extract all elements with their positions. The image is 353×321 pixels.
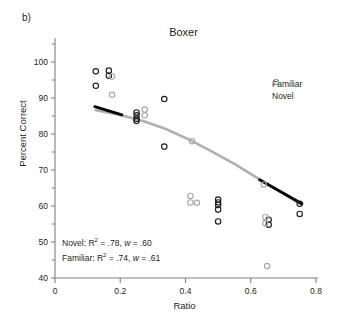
x-tick-label: 0.6 <box>245 286 257 296</box>
data-point-familiar <box>215 219 220 224</box>
data-point-familiar <box>297 211 302 216</box>
data-point-novel <box>188 200 193 205</box>
data-point-novel <box>194 200 199 205</box>
legend: Familiar Novel <box>272 78 302 102</box>
annotation-familiar: Familiar: R2 = .74, w = .61 <box>62 249 160 264</box>
data-point-novel <box>264 263 269 268</box>
x-tick-label: 0.2 <box>114 286 126 296</box>
x-tick-label: 0.8 <box>310 286 322 296</box>
annotation-familiar-prefix: Familiar: R <box>62 253 103 263</box>
fit-annotations: Novel: R2 = .78, w = .60 Familiar: R2 = … <box>62 234 160 265</box>
annotation-novel-suffix: = .60 <box>130 238 152 248</box>
data-point-familiar <box>162 96 167 101</box>
novel-fit-curve <box>96 110 302 204</box>
open-circle-marker-icon <box>272 78 280 86</box>
annotation-novel-prefix: Novel: R <box>62 238 95 248</box>
plot-area: 40506070809010000.20.40.60.8 <box>0 0 353 321</box>
data-point-familiar <box>162 144 167 149</box>
y-tick-label: 40 <box>39 273 49 283</box>
y-tick-label: 50 <box>39 237 49 247</box>
data-point-novel <box>142 113 147 118</box>
data-point-novel <box>263 221 268 226</box>
legend-item-novel: Novel <box>272 90 302 102</box>
data-point-novel <box>109 74 114 79</box>
y-tick-label: 90 <box>39 93 49 103</box>
data-point-novel <box>142 107 147 112</box>
annotation-novel-mid: = .78, <box>98 238 124 248</box>
legend-label-novel: Novel <box>272 90 294 102</box>
y-tick-label: 70 <box>39 165 49 175</box>
x-tick-label: 0.4 <box>180 286 192 296</box>
x-tick-label: 0 <box>53 286 58 296</box>
annotation-familiar-mid: = .74, <box>106 253 132 263</box>
annotation-novel: Novel: R2 = .78, w = .60 <box>62 234 160 249</box>
data-point-familiar <box>93 83 98 88</box>
data-point-novel <box>188 193 193 198</box>
annotation-familiar-suffix: = .61 <box>139 253 161 263</box>
data-point-familiar <box>93 69 98 74</box>
data-point-novel <box>109 92 114 97</box>
figure-panel: b) Boxer Percent Correct Ratio 405060708… <box>0 0 353 321</box>
y-tick-label: 100 <box>34 57 48 67</box>
y-tick-label: 60 <box>39 201 49 211</box>
y-tick-label: 80 <box>39 129 49 139</box>
